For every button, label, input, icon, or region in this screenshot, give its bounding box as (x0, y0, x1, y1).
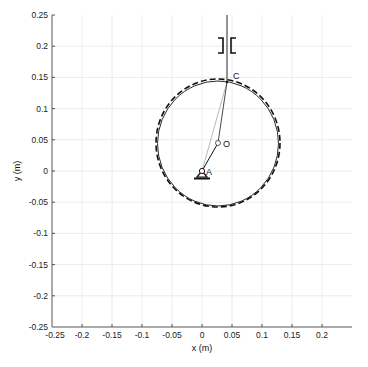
y-tick-label: 0.05 (31, 135, 48, 145)
x-tick-label: 0.2 (316, 330, 328, 340)
y-tick-label: -0.1 (33, 228, 48, 238)
y-tick-label: 0 (43, 166, 48, 176)
y-tick-label: 0.1 (36, 104, 48, 114)
point-label-a: A (206, 167, 212, 177)
x-tick-label: 0.1 (256, 330, 268, 340)
x-tick-label: 0 (200, 330, 205, 340)
x-axis-label: x (m) (192, 343, 213, 353)
y-tick-label: 0.2 (36, 41, 48, 51)
y-tick-label: -0.25 (29, 322, 49, 332)
x-tick-label: 0.05 (224, 330, 241, 340)
y-tick-label: 0.25 (31, 10, 48, 20)
y-axis-label: y (m) (12, 161, 22, 182)
x-tick-label: 0.15 (284, 330, 301, 340)
y-tick-label: 0.15 (31, 72, 48, 82)
y-tick-label: -0.05 (29, 197, 49, 207)
x-tick-label: -0.25 (45, 330, 65, 340)
x-tick-label: -0.15 (102, 330, 122, 340)
point-label-o: O (223, 139, 230, 149)
link-A-C (202, 82, 227, 171)
x-tick-label: -0.05 (162, 330, 182, 340)
y-tick-labels: 0.25 0.2 0.15 0.1 0.05 0 -0.05 -0.1 -0.1… (29, 10, 49, 332)
x-tick-labels: -0.25 -0.2 -0.15 -0.1 -0.05 0 0.05 0.1 0… (45, 330, 328, 340)
x-tick-label: -0.1 (135, 330, 150, 340)
x-tick-label: -0.2 (75, 330, 90, 340)
joint-C-icon (226, 81, 228, 83)
y-tick-label: -0.2 (33, 291, 48, 301)
link-O-C (218, 82, 227, 143)
y-tick-label: -0.15 (29, 260, 49, 270)
chart: -0.25 -0.2 -0.15 -0.1 -0.05 0 0.05 0.1 0… (0, 0, 368, 367)
point-label-c: C (233, 71, 240, 81)
joint-O-icon (216, 141, 221, 146)
